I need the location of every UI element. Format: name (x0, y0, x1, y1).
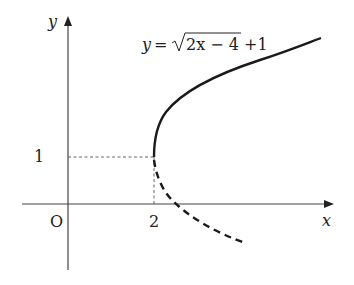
curve-dashed (154, 160, 245, 243)
x-axis-label: x (322, 211, 331, 230)
origin-label: O (50, 212, 63, 231)
svg-text:2x − 4: 2x − 4 (186, 35, 239, 54)
equation-label: y = 2x − 4 +1 (141, 33, 268, 54)
curve-solid (154, 38, 321, 157)
svg-text:y: y (141, 35, 152, 54)
y-tick-1: 1 (34, 147, 44, 166)
svg-text:+1: +1 (244, 35, 268, 54)
x-tick-2: 2 (149, 212, 159, 231)
graph-figure: y x O 2 1 y = 2x − 4 +1 (0, 0, 354, 285)
svg-text:=: = (154, 35, 167, 54)
y-axis-label: y (47, 12, 58, 31)
